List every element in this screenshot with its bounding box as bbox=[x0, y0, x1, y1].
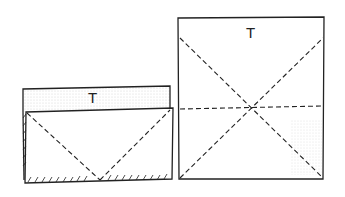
front-layer bbox=[25, 108, 173, 183]
left-edge bbox=[23, 112, 24, 180]
origami-diagram bbox=[0, 0, 345, 197]
right-figure bbox=[178, 17, 324, 179]
left-figure-label: T bbox=[88, 89, 97, 106]
shading bbox=[290, 120, 322, 175]
left-figure bbox=[23, 86, 173, 183]
right-figure-label: T bbox=[246, 24, 255, 41]
